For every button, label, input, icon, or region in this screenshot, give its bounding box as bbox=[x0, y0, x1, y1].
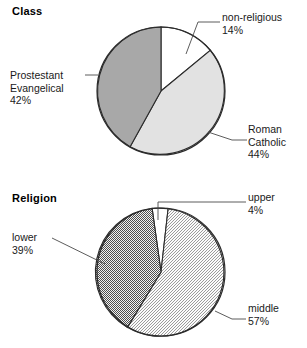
callout-middle-name: middle bbox=[248, 302, 279, 315]
callout-middle-percent: 57% bbox=[248, 315, 279, 328]
leader-line-middle bbox=[215, 311, 246, 319]
callout-non-religious-percent: 14% bbox=[222, 24, 282, 37]
callout-roman-catholic-percent: 44% bbox=[248, 148, 286, 161]
callout-roman-catholic-line1: Roman bbox=[248, 123, 286, 136]
callout-roman-catholic-line2: Catholic bbox=[248, 136, 286, 149]
pie-chart-religion: Religion upper bbox=[0, 180, 307, 348]
pie-chart-class: Class non-reli bbox=[0, 0, 307, 180]
callout-prostestant-line2: Evangelical bbox=[10, 82, 64, 95]
callout-upper: upper 4% bbox=[248, 191, 275, 216]
callout-lower-name: lower bbox=[12, 231, 37, 244]
callout-non-religious: non-religious 14% bbox=[222, 11, 282, 36]
callout-prostestant-line1: Prostestant bbox=[10, 69, 64, 82]
callout-lower: lower 39% bbox=[12, 231, 37, 256]
leader-line-roman-catholic bbox=[208, 132, 247, 140]
callout-roman-catholic: Roman Catholic 44% bbox=[248, 123, 286, 161]
callout-lower-percent: 39% bbox=[12, 244, 37, 257]
callout-middle: middle 57% bbox=[248, 302, 279, 327]
callout-upper-name: upper bbox=[248, 191, 275, 204]
callout-upper-percent: 4% bbox=[248, 204, 275, 217]
leader-line-lower bbox=[52, 238, 105, 264]
callout-non-religious-name: non-religious bbox=[222, 11, 282, 24]
callout-prostestant-evangelical: Prostestant Evangelical 42% bbox=[10, 69, 64, 107]
callout-prostestant-percent: 42% bbox=[10, 94, 64, 107]
